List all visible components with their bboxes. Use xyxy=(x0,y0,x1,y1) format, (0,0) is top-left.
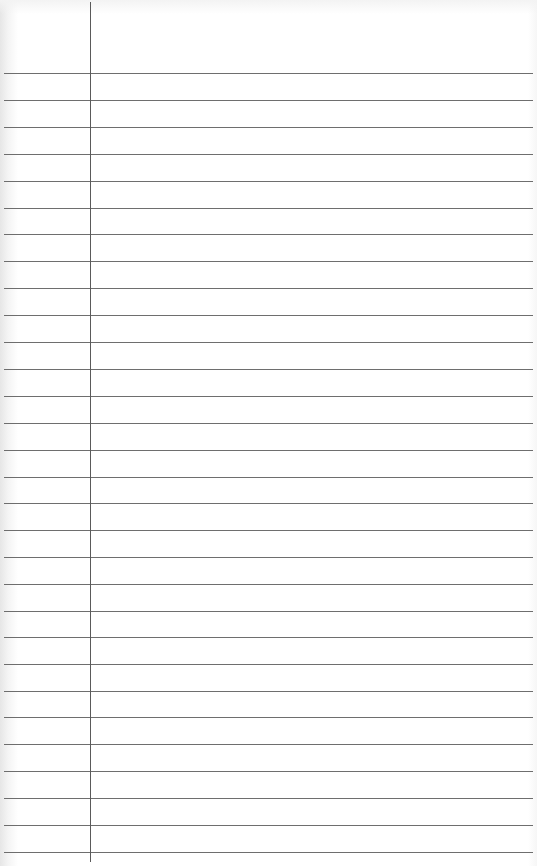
rule-line xyxy=(4,315,533,316)
rule-line xyxy=(4,288,533,289)
rule-line xyxy=(4,234,533,235)
rule-line xyxy=(4,342,533,343)
rule-line xyxy=(4,557,533,558)
rule-line xyxy=(4,261,533,262)
margin-line xyxy=(90,2,91,862)
rule-line xyxy=(4,771,533,772)
rule-line xyxy=(4,154,533,155)
rule-line xyxy=(4,73,533,74)
rule-line xyxy=(4,100,533,101)
rule-line xyxy=(4,181,533,182)
rule-line xyxy=(4,825,533,826)
rule-line xyxy=(4,637,533,638)
rule-line xyxy=(4,852,533,853)
lined-paper-sheet xyxy=(0,0,537,866)
rule-line xyxy=(4,477,533,478)
rule-line xyxy=(4,450,533,451)
rule-line xyxy=(4,396,533,397)
rule-line xyxy=(4,611,533,612)
rule-line xyxy=(4,530,533,531)
rule-line xyxy=(4,127,533,128)
rule-line xyxy=(4,423,533,424)
rule-line xyxy=(4,369,533,370)
rule-line xyxy=(4,584,533,585)
top-shadow xyxy=(0,0,537,14)
rule-line xyxy=(4,744,533,745)
rule-line xyxy=(4,717,533,718)
rule-line xyxy=(4,691,533,692)
rule-line xyxy=(4,664,533,665)
rule-line xyxy=(4,503,533,504)
rule-line xyxy=(4,798,533,799)
rule-line xyxy=(4,208,533,209)
